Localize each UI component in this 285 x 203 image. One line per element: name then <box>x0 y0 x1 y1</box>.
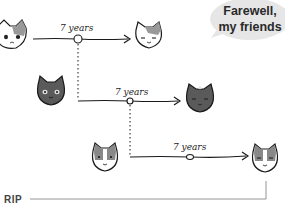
branch-node <box>74 35 82 43</box>
branch-node <box>187 155 194 160</box>
gray-cat-aged-icon <box>187 84 214 112</box>
years-label: 7 years <box>115 87 149 97</box>
rip-label: RIP <box>4 194 22 203</box>
branch-node <box>127 98 133 104</box>
cat-lifecycle-diagram: Farewell, my friends 7 years 7 years 7 y… <box>0 0 285 203</box>
bubble-line-1: Farewell, <box>223 4 277 18</box>
calico-cat-aged-icon <box>136 22 162 48</box>
calico-cat-icon <box>0 20 26 48</box>
timeline-2: 7 years <box>78 87 180 157</box>
gray-cat-icon <box>38 76 65 105</box>
tabby-white-cat-icon <box>93 143 118 171</box>
tabby-white-cat-aged-icon <box>253 144 278 172</box>
timeline-3: 7 years <box>130 142 248 160</box>
years-label: 7 years <box>60 23 94 33</box>
bubble-line-2: my friends <box>218 20 281 34</box>
rip-connector <box>30 181 266 199</box>
speech-bubble: Farewell, my friends <box>210 0 285 40</box>
rip-line: RIP <box>4 181 266 203</box>
years-label: 7 years <box>173 142 207 152</box>
